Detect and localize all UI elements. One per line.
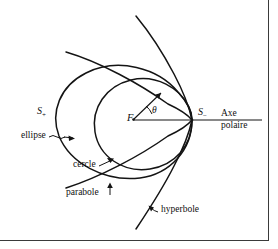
- theta-label: θ: [152, 106, 157, 116]
- parabole-label: parabole: [66, 188, 99, 198]
- vertex-right-label: S−: [198, 107, 207, 120]
- ellipse-leader-arrowhead: [69, 136, 76, 142]
- vertex-point-marker: [191, 119, 194, 122]
- ellipse-leader-squiggle: [49, 136, 65, 139]
- conic-sections-figure: S+ ellipse cercle parabole hyperbole F θ…: [0, 0, 278, 249]
- focus-label: F: [127, 112, 133, 123]
- vertex-right-subscript: −: [203, 112, 207, 120]
- ellipse-label: ellipse: [21, 131, 46, 141]
- curve-hyperbole: [136, 16, 192, 229]
- polar-axis-label-line2: polaire: [221, 121, 247, 131]
- cercle-label: cercle: [73, 160, 96, 170]
- vertex-left-subscript: +: [42, 111, 46, 119]
- polar-axis-label-line1: Axe: [221, 109, 237, 119]
- parabole-leader-arrowhead: [107, 183, 113, 189]
- vertex-left-label: S+: [37, 106, 46, 119]
- hyperbole-label: hyperbole: [161, 205, 199, 215]
- curve-cercle: [94, 79, 192, 170]
